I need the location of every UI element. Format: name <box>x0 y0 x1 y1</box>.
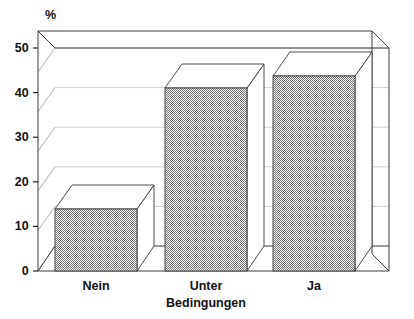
category-label-bedingungen: Bedingungen <box>166 296 246 310</box>
bar-chart: % 50 40 30 20 10 0 Nein Unter Bedingunge… <box>0 0 414 319</box>
category-label-unter: Unter <box>190 279 223 293</box>
y-tick-label-40: 40 <box>3 86 29 100</box>
y-tick-label-0: 0 <box>3 264 29 278</box>
y-tick-label-30: 30 <box>3 130 29 144</box>
y-tick-label-10: 10 <box>3 219 29 233</box>
y-tick-label-20: 20 <box>3 175 29 189</box>
chart-canvas <box>0 0 414 319</box>
bar-unter-bedingungen <box>165 64 264 271</box>
y-axis-ticks <box>33 48 38 271</box>
y-tick-label-50: 50 <box>3 41 29 55</box>
category-label-ja: Ja <box>307 279 321 293</box>
bar-nein <box>55 185 154 271</box>
plot-depth-edges <box>38 48 55 271</box>
category-label-nein: Nein <box>82 279 109 293</box>
bar-ja <box>273 52 372 271</box>
y-axis-unit-label: % <box>45 8 56 22</box>
